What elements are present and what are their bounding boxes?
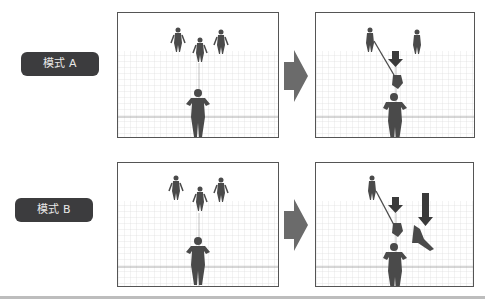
scene-before-a (118, 13, 279, 138)
mode-a-label: 模式 A (21, 52, 99, 76)
mode-a-before-scene (117, 12, 279, 138)
enemy-figure (214, 30, 228, 55)
scene-before-b (118, 163, 279, 287)
mode-a-text: 模式 A (43, 57, 76, 70)
mode-b-label: 模式 B (15, 198, 93, 222)
arrow-right-icon (284, 199, 308, 251)
enemy-figure (171, 28, 185, 53)
mode-b-text: 模式 B (37, 203, 70, 216)
mode-b-before-scene (117, 162, 279, 287)
mode-a-after-scene (315, 12, 475, 138)
scene-after-a (316, 13, 475, 138)
bottom-divider (0, 296, 485, 299)
mode-b-after-scene (315, 162, 474, 287)
scene-after-b (316, 163, 474, 287)
arrow-right-icon (284, 50, 308, 102)
